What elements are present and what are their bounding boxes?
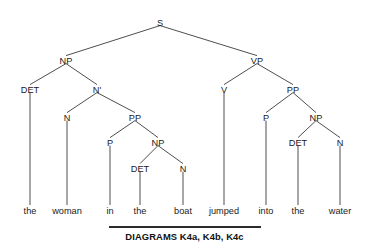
- tree-node-s: S: [157, 18, 163, 28]
- tree-branch-pp2-p2: [266, 93, 293, 113]
- tree-leaf-the-2: the: [134, 206, 147, 216]
- tree-node-v: V: [221, 85, 228, 95]
- syntax-tree-figure: SNPVPDETN'VPPNPPPNPPNPDETNDETN thewomani…: [0, 0, 369, 248]
- tree-node-nbar: N': [93, 85, 102, 95]
- figure-caption: DIAGRAMS K4a, K4b, K4c: [0, 226, 369, 243]
- tree-leaf-boat: boat: [174, 206, 192, 216]
- tree-branch-np2-n2: [158, 146, 183, 164]
- tree-node-np3: NP: [310, 113, 323, 123]
- tree-node-pp1: PP: [129, 113, 141, 123]
- tree-node-det1: DET: [21, 85, 40, 95]
- tree-node-label-layer: SNPVPDETN'VPPNPPPNPPNPDETNDETN: [21, 18, 344, 174]
- tree-leaf-the-3: the: [292, 206, 305, 216]
- tree-leafline-layer: [30, 93, 340, 205]
- tree-leaf-jumped: jumped: [208, 206, 239, 216]
- tree-branch-vp-v: [224, 64, 257, 85]
- tree-node-p1: P: [107, 138, 113, 148]
- tree-branch-np1-nbar: [66, 64, 97, 85]
- tree-leaf-in: in: [106, 206, 113, 216]
- tree-leaf-into: into: [259, 206, 274, 216]
- tree-branch-np1-det1: [30, 64, 66, 85]
- tree-node-n3: N: [337, 138, 344, 148]
- tree-node-np2: NP: [152, 138, 165, 148]
- tree-node-p2: P: [263, 113, 269, 123]
- tree-node-n2: N: [180, 164, 187, 174]
- tree-leaf-water: water: [328, 206, 351, 216]
- tree-branch-pp2-np3: [293, 93, 316, 113]
- tree-branch-nbar-pp1: [97, 93, 135, 113]
- tree-branch-s-vp: [160, 26, 257, 56]
- tree-branch-np3-n3: [316, 121, 340, 138]
- tree-branch-np2-det2: [140, 146, 158, 164]
- tree-node-np1: NP: [60, 56, 73, 66]
- tree-leaf-label-layer: thewomanintheboatjumpedintothewater: [24, 206, 352, 216]
- caption-rule: [109, 226, 261, 228]
- tree-node-n1: N: [64, 113, 71, 123]
- tree-node-det2: DET: [131, 164, 150, 174]
- tree-branch-pp1-np2: [135, 121, 158, 138]
- tree-branch-pp1-p1: [110, 121, 135, 138]
- tree-node-pp2: PP: [287, 85, 299, 95]
- tree-branch-vp-pp2: [257, 64, 293, 85]
- tree-node-det3: DET: [289, 138, 308, 148]
- tree-leaf-woman: woman: [51, 206, 82, 216]
- tree-node-vp: VP: [251, 56, 263, 66]
- tree-leaf-the-1: the: [24, 206, 37, 216]
- syntax-tree-canvas: SNPVPDETN'VPPNPPPNPPNPDETNDETN thewomani…: [0, 0, 369, 248]
- tree-branch-nbar-n1: [67, 93, 97, 113]
- tree-branch-np3-det3: [298, 121, 316, 138]
- tree-branch-s-np1: [66, 26, 160, 56]
- caption-text: DIAGRAMS K4a, K4b, K4c: [0, 231, 369, 243]
